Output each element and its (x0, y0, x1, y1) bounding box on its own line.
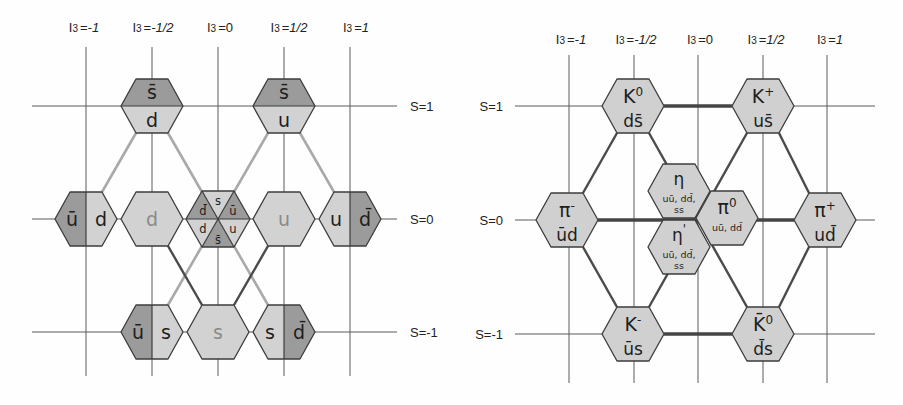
meson-pi-minus: π- ūd (536, 193, 598, 247)
strangeness-label: S=-1 (475, 327, 503, 342)
antiquark-label: s̄ (215, 233, 221, 247)
quark-content: uū, dd̄, (662, 193, 695, 204)
i3-label: I3=1 (817, 32, 843, 47)
quark-content: ud̄ (814, 224, 837, 245)
antiquark-label: ū (132, 321, 144, 343)
antiquark-label: d̄ (359, 207, 372, 230)
strangeness-label: S=1 (480, 99, 504, 114)
quark-label: u (278, 208, 290, 230)
meson-eta-prime: η' uū, dd̄, ss (648, 220, 710, 274)
hex-u: u (253, 192, 315, 246)
antiquark-label: s̄ (147, 81, 157, 103)
quark-label: s (265, 321, 275, 343)
i3-label: I3=-1 (556, 32, 586, 47)
quark-label: s (161, 321, 171, 343)
antiquark-label: ū (66, 208, 78, 230)
antiquark-label: d̄ (293, 320, 306, 343)
right-links (583, 106, 809, 334)
right-diagram: I3=-1 I3=-1/2 I3=0 I3=1/2 I3=1 S=1 S=0 S… (475, 32, 875, 383)
quark-content: ūs (623, 339, 643, 359)
quark-content: ūd (556, 225, 578, 245)
quark-content: uū, dd̄, (662, 249, 695, 260)
strangeness-label: S=-1 (410, 325, 438, 340)
right-i3-labels: I3=-1 I3=-1/2 I3=0 I3=1/2 I3=1 (556, 32, 843, 47)
hex-ubar-s: ū s (121, 305, 183, 359)
hex-d: d (121, 192, 183, 246)
figure-canvas: I3=-1 I3=-1/2 I3=0 I3=1/2 I3=1 S=1 S=0 S… (0, 0, 903, 405)
quark-content: uū, dd̄ (712, 222, 743, 233)
quark-label: u (330, 208, 342, 230)
hex-sbar-u: s̄ u (253, 79, 315, 133)
antiquark-label: ū (229, 204, 236, 218)
i3-label: I3=-1/2 (132, 20, 174, 35)
hex-ubar-d: ū d (55, 192, 117, 246)
strangeness-label: S=1 (410, 99, 434, 114)
quark-label: s (215, 194, 221, 208)
quark-label: d (199, 222, 206, 236)
i3-label: I3=0 (207, 20, 233, 35)
hex-s-dbar: s d̄ (253, 305, 315, 359)
quark-label: s (213, 321, 223, 343)
quark-label: d (146, 208, 158, 230)
quark-label: d (95, 208, 107, 230)
i3-label: I3=0 (687, 32, 713, 47)
i3-label: I3=1 (343, 20, 369, 35)
meson-symbol: η (674, 169, 685, 189)
quark-content: us̄ (753, 111, 773, 131)
meson-k0: K0 ds̄ (602, 79, 664, 133)
i3-label: I3=1/2 (271, 20, 309, 35)
hex-sbar-d: s̄ d (121, 79, 183, 133)
hex-u-dbar: u d̄ (319, 192, 381, 246)
right-s-labels: S=1 S=0 S=-1 (475, 99, 503, 342)
left-diagram: I3=-1 I3=-1/2 I3=0 I3=1/2 I3=1 S=1 S=0 S… (32, 20, 438, 376)
quark-label: u (278, 109, 290, 131)
meson-k-plus: K+ us̄ (732, 79, 794, 133)
hex-mixed-center: s d̄ ū d u s̄ (186, 191, 250, 247)
antiquark-label: d̄ (199, 204, 207, 218)
quark-content: ss (674, 260, 684, 271)
meson-k0-bar: K̄0 d̄s (732, 307, 794, 361)
antiquark-label: s̄ (279, 81, 289, 103)
quark-content: d̄s (753, 338, 773, 359)
left-i3-labels: I3=-1 I3=-1/2 I3=0 I3=1/2 I3=1 (69, 20, 369, 35)
quark-label: u (229, 222, 236, 236)
i3-label: I3=1/2 (748, 32, 786, 47)
meson-pi-plus: π+ ud̄ (794, 193, 856, 247)
strangeness-label: S=0 (410, 212, 434, 227)
left-s-labels: S=1 S=0 S=-1 (410, 99, 438, 340)
meson-k-minus: K- ūs (602, 307, 664, 361)
hex-s: s (187, 305, 249, 359)
meson-nonet-figure: I3=-1 I3=-1/2 I3=0 I3=1/2 I3=1 S=1 S=0 S… (0, 0, 903, 405)
i3-label: I3=-1 (69, 20, 99, 35)
i3-label: I3=-1/2 (615, 32, 657, 47)
quark-content: ds̄ (623, 111, 643, 131)
quark-content: ss (674, 204, 684, 215)
strangeness-label: S=0 (480, 213, 504, 228)
quark-label: d (146, 109, 158, 131)
